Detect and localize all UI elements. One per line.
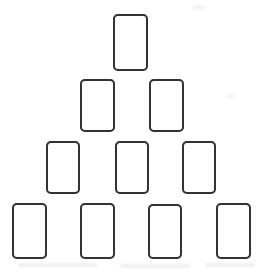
card-row3-col3[interactable] bbox=[182, 141, 216, 194]
card-row3-col2[interactable] bbox=[115, 141, 149, 194]
scan-artifact-4 bbox=[120, 264, 190, 268]
scan-artifact-5 bbox=[205, 263, 255, 267]
card-row4-col4[interactable] bbox=[216, 203, 251, 259]
card-row2-col2[interactable] bbox=[149, 79, 184, 132]
card-row2-col1[interactable] bbox=[80, 79, 115, 132]
scan-artifact-3 bbox=[18, 263, 98, 267]
card-row1-col1[interactable] bbox=[113, 14, 148, 71]
scan-artifact-1 bbox=[192, 5, 206, 10]
card-row4-col1[interactable] bbox=[12, 203, 47, 259]
scan-artifact-2 bbox=[226, 94, 236, 98]
card-row3-col1[interactable] bbox=[46, 141, 80, 194]
pyramid-board bbox=[0, 0, 262, 272]
card-row4-col3[interactable] bbox=[148, 204, 182, 259]
card-row4-col2[interactable] bbox=[80, 203, 115, 259]
